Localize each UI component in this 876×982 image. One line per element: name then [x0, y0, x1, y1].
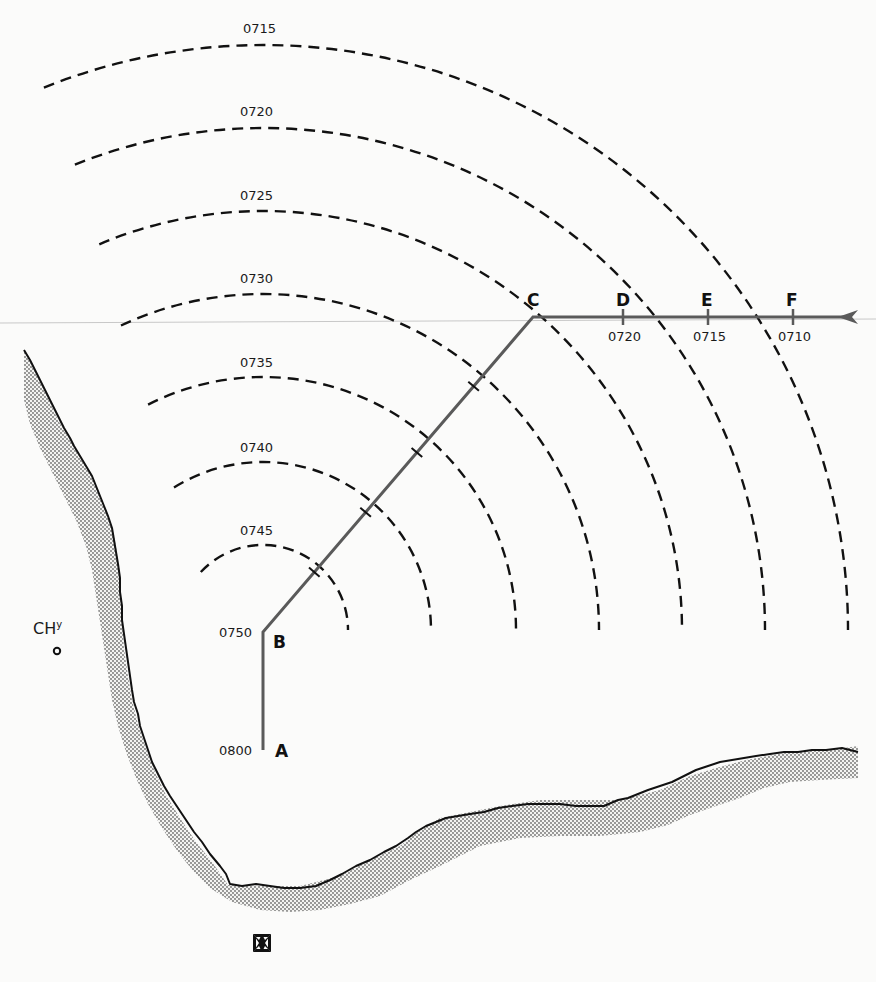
track-point-B: B — [273, 632, 286, 652]
arc-time-label: 0725 — [240, 188, 273, 203]
track-point-A: A — [275, 741, 289, 761]
page-rule-line — [0, 319, 876, 323]
range-arc-0730 — [121, 294, 599, 630]
coastline-shading — [24, 350, 858, 888]
track-point-time: 0750 — [219, 625, 252, 640]
inbound-time-label: 0715 — [693, 329, 726, 344]
range-arcs-group — [44, 45, 848, 630]
inbound-point-E: E — [701, 290, 713, 310]
track-point-C: C — [527, 290, 539, 310]
labels-group: 0715072007250730073507400745A0800B0750CD… — [219, 21, 811, 761]
track-arrow-icon — [838, 310, 858, 324]
vessel-track-line — [263, 317, 850, 750]
range-arc-0715 — [44, 45, 848, 630]
vessel-track-group — [263, 309, 858, 750]
navigation-diagram: 0715072007250730073507400745A0800B0750CD… — [0, 0, 876, 982]
range-arc-0725 — [99, 211, 682, 630]
range-arc-0740 — [174, 462, 431, 630]
land-stipple-band — [24, 350, 858, 912]
arc-time-label: 0720 — [240, 104, 273, 119]
plot-canvas: 0715072007250730073507400745A0800B0750CD… — [0, 0, 876, 982]
arc-time-label: 0740 — [240, 440, 273, 455]
coastline-edge — [24, 350, 858, 888]
range-arc-0720 — [75, 128, 765, 630]
arc-time-label: 0715 — [243, 21, 276, 36]
range-arc-0735 — [148, 377, 516, 630]
landmark-label: CHy — [33, 619, 62, 638]
arc-time-label: 0745 — [240, 523, 273, 538]
inbound-point-F: F — [786, 290, 798, 310]
maltese-cross-icon — [253, 934, 271, 952]
arc-time-label: 0730 — [240, 271, 273, 286]
track-point-time: 0800 — [219, 743, 252, 758]
landmark-point-icon — [54, 648, 60, 654]
inbound-time-label: 0710 — [778, 329, 811, 344]
inbound-point-D: D — [616, 290, 630, 310]
arc-time-label: 0735 — [240, 355, 273, 370]
inbound-time-label: 0720 — [608, 329, 641, 344]
